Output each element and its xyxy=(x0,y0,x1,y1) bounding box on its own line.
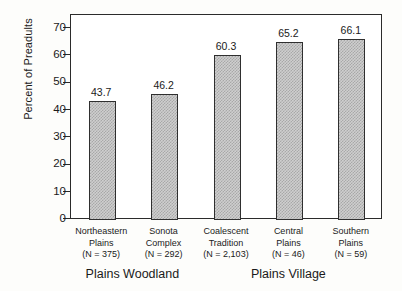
bar xyxy=(214,55,241,220)
category-label-line: (N = 2,103) xyxy=(192,249,260,261)
group-label: Plains Village xyxy=(208,268,368,281)
bar-value-label: 46.2 xyxy=(139,80,189,91)
category-label-line: Coalescent xyxy=(192,226,260,238)
bar xyxy=(338,39,365,220)
category-label-line: (N = 46) xyxy=(254,249,322,261)
category-label-line: (N = 59) xyxy=(317,249,385,261)
category-label-line: (N = 375) xyxy=(67,249,135,261)
category-label-line: Northeastern xyxy=(67,226,135,238)
y-tick-label: 0 xyxy=(26,213,66,225)
y-tick-label: 10 xyxy=(26,186,66,198)
bar-value-label: 66.1 xyxy=(326,25,376,36)
y-tick-label: 20 xyxy=(26,158,66,170)
category-label-line: Southern xyxy=(317,226,385,238)
category-label-line: Complex xyxy=(130,238,198,250)
category-label: CentralPlains(N = 46) xyxy=(254,226,322,261)
y-tick-label: 40 xyxy=(26,104,66,116)
bar-value-label: 65.2 xyxy=(263,28,313,39)
category-label: SouthernPlains(N = 59) xyxy=(317,226,385,261)
y-tick-label: 50 xyxy=(26,76,66,88)
bar xyxy=(151,94,178,220)
y-tick-label: 60 xyxy=(26,49,66,61)
category-label: NortheasternPlains(N = 375) xyxy=(67,226,135,261)
category-label-line: Plains xyxy=(254,238,322,250)
category-label: CoalescentTradition(N = 2,103) xyxy=(192,226,260,261)
bar xyxy=(276,42,303,220)
category-label-line: (N = 292) xyxy=(130,249,198,261)
bar-value-label: 43.7 xyxy=(76,87,126,98)
category-label-line: Tradition xyxy=(192,238,260,250)
y-tick-label: 70 xyxy=(26,22,66,34)
category-label-line: Plains xyxy=(317,238,385,250)
category-label: SonotaComplex(N = 292) xyxy=(130,226,198,261)
bar xyxy=(89,101,116,220)
category-label-line: Plains xyxy=(67,238,135,250)
category-label-line: Central xyxy=(254,226,322,238)
group-label: Plains Woodland xyxy=(52,268,212,281)
y-tick-label: 30 xyxy=(26,131,66,143)
category-label-line: Sonota xyxy=(130,226,198,238)
bar-value-label: 60.3 xyxy=(201,41,251,52)
bar-chart-figure: Percent of Preadults 010203040506070 43.… xyxy=(0,0,402,291)
